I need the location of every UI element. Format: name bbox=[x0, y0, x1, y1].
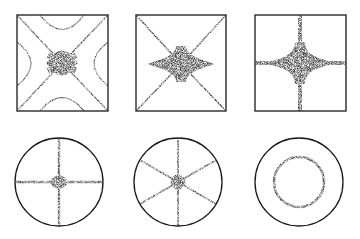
square-panel-2 bbox=[136, 15, 226, 111]
circle-panel-3 bbox=[255, 138, 343, 226]
circle-panel-2 bbox=[134, 138, 222, 226]
square-panel-1 bbox=[17, 15, 108, 111]
square-panel-3 bbox=[255, 15, 346, 111]
circle-panel-1 bbox=[15, 138, 103, 226]
chladni-figure bbox=[0, 0, 360, 239]
